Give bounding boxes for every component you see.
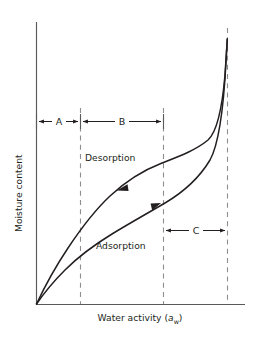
region-c-label: C — [193, 225, 200, 236]
desorption-label: Desorption — [85, 152, 136, 163]
desorption-curve-group — [37, 39, 228, 304]
x-axis-title: Water activity (aw) — [98, 312, 183, 326]
y-axis-title: Moisture content — [13, 154, 24, 232]
region-a-label: A — [56, 116, 63, 127]
chart-canvas: A B C Desorption Adsorption Moisture con… — [0, 0, 256, 341]
adsorption-label: Adsorption — [96, 240, 146, 251]
x-axis-title-prefix: Water activity ( — [98, 312, 168, 323]
axes-group — [36, 22, 245, 305]
adsorption-curve-group — [37, 39, 228, 304]
desorption-curve — [37, 39, 228, 304]
x-axis-title-suffix: ) — [179, 312, 183, 323]
region-b-label: B — [119, 116, 126, 127]
curve-labels-group: Desorption Adsorption — [85, 152, 146, 251]
region-labels-group: A B C — [52, 114, 203, 238]
adsorption-curve — [37, 39, 228, 304]
sorption-isotherm-figure: A B C Desorption Adsorption Moisture con… — [0, 0, 256, 341]
